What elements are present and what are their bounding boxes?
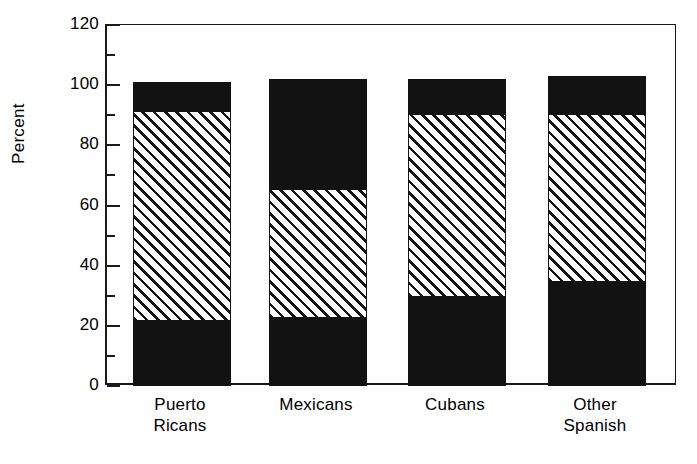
y-tick-minor — [107, 235, 115, 237]
bar-segment-middle-segment — [548, 115, 646, 280]
x-category-label: Cubans — [380, 394, 530, 415]
y-tick-major — [107, 144, 120, 146]
bar-segment-bottom-segment — [133, 320, 231, 386]
bar-segment-top-segment — [269, 79, 367, 190]
y-tick-minor — [107, 355, 115, 357]
y-axis-title: Percent — [9, 24, 33, 164]
y-tick-major — [107, 265, 120, 267]
y-tick-label: 80 — [47, 135, 99, 152]
y-tick-major — [107, 24, 120, 26]
bar-segment-middle-segment — [408, 115, 506, 296]
bar-puerto-ricans — [133, 25, 231, 386]
y-tick-minor — [107, 114, 115, 116]
bar-mexicans — [269, 25, 367, 386]
y-tick-minor — [107, 295, 115, 297]
bar-segment-top-segment — [408, 79, 506, 115]
x-category-label: Puerto Ricans — [105, 394, 255, 436]
bar-segment-bottom-segment — [408, 296, 506, 386]
x-category-label: Other Spanish — [520, 394, 670, 436]
y-tick-minor — [107, 54, 115, 56]
y-tick-label: 60 — [47, 196, 99, 213]
bar-segment-top-segment — [548, 76, 646, 115]
bar-segment-bottom-segment — [269, 317, 367, 386]
y-tick-label: 100 — [47, 75, 99, 92]
y-tick-label: 40 — [47, 256, 99, 273]
chart-figure: Percent 020406080100120 Puerto RicansMex… — [0, 0, 697, 464]
y-tick-label: 20 — [47, 316, 99, 333]
bar-segment-top-segment — [133, 82, 231, 112]
bar-cubans — [408, 25, 506, 386]
y-tick-major — [107, 84, 120, 86]
y-tick-major — [107, 385, 120, 387]
y-tick-label: 120 — [47, 15, 99, 32]
x-category-label: Mexicans — [241, 394, 391, 415]
y-tick-minor — [107, 174, 115, 176]
bar-segment-middle-segment — [269, 190, 367, 316]
plot-area — [105, 24, 676, 385]
y-tick-major — [107, 325, 120, 327]
y-tick-label: 0 — [47, 376, 99, 393]
bar-segment-bottom-segment — [548, 281, 646, 386]
bar-segment-middle-segment — [133, 112, 231, 320]
bar-other-spanish — [548, 25, 646, 386]
y-tick-major — [107, 205, 120, 207]
